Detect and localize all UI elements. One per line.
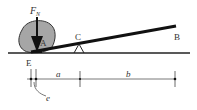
dim-b-label: b xyxy=(126,69,131,79)
force-label: FN xyxy=(29,5,41,17)
point-c-label: C xyxy=(75,32,81,42)
point-a-label: A xyxy=(40,38,47,48)
lever-diagram: FN A C B E a b e xyxy=(0,0,197,110)
dim-a-label: a xyxy=(56,69,61,79)
point-e-label: E xyxy=(26,58,32,68)
dim-e-label: e xyxy=(46,93,50,103)
point-b-label: B xyxy=(174,32,180,42)
